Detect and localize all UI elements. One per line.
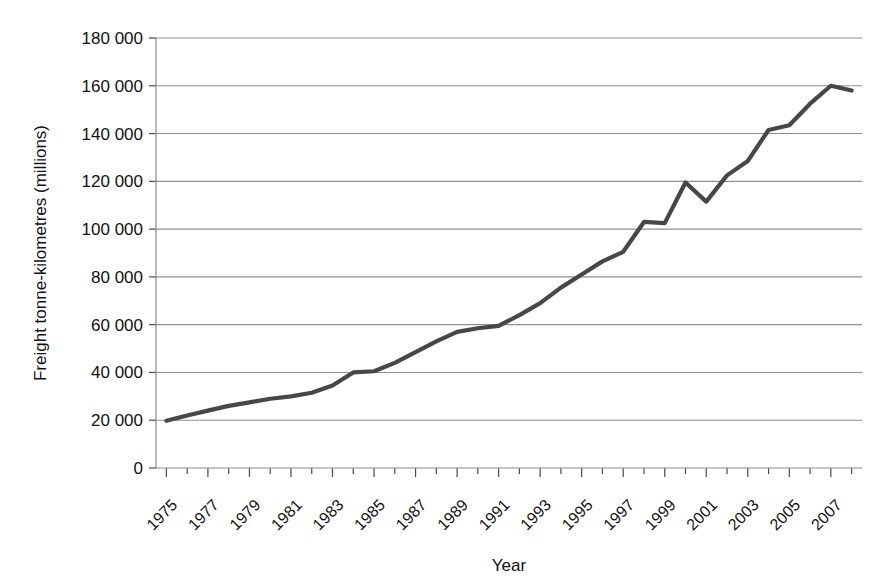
chart-container: 020 00040 00060 00080 000100 000120 0001… <box>0 0 895 582</box>
y-axis-tick-label: 160 000 <box>82 77 143 96</box>
y-axis-tick-label: 140 000 <box>82 125 143 144</box>
x-axis-title: Year <box>492 556 527 575</box>
y-axis-tick-label: 100 000 <box>82 220 143 239</box>
y-axis-tick-label: 120 000 <box>82 172 143 191</box>
line-chart: 020 00040 00060 00080 000100 000120 0001… <box>0 0 895 582</box>
y-axis-tick-label: 0 <box>134 459 143 478</box>
y-axis-title: Freight tonne-kilometres (millions) <box>31 125 50 381</box>
y-axis-tick-label: 80 000 <box>91 268 143 287</box>
y-axis-tick-label: 60 000 <box>91 316 143 335</box>
y-axis-tick-label: 20 000 <box>91 411 143 430</box>
y-axis-tick-label: 40 000 <box>91 363 143 382</box>
y-axis-tick-label: 180 000 <box>82 29 143 48</box>
